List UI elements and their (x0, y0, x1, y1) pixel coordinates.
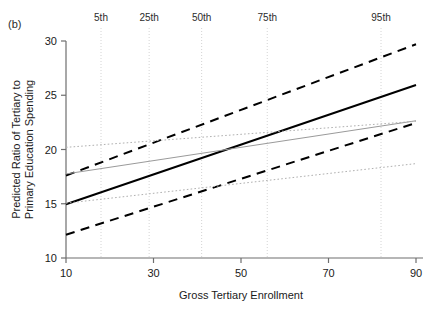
series-line-2 (66, 123, 416, 235)
series-line-0 (66, 85, 416, 204)
y-axis-title-line-1: Primary Education Spending (23, 80, 35, 219)
y-tick-label-25: 25 (45, 89, 57, 101)
x-tick-label-50: 50 (235, 267, 247, 279)
percentile-label-5th: 5th (94, 12, 108, 23)
figure-panel: (b) 5th25th50th75th95th10152025301030507… (0, 0, 431, 313)
x-tick-label-90: 90 (410, 267, 422, 279)
series-line-3 (66, 121, 416, 174)
y-axis-title-line-0: Predicted Ratio of Tertiary to (10, 80, 22, 219)
y-tick-label-10: 10 (45, 252, 57, 264)
percentile-label-75th: 75th (258, 12, 277, 23)
chart-canvas: 5th25th50th75th95th10152025301030507090G… (0, 0, 431, 313)
series-line-5 (66, 164, 416, 204)
y-tick-label-30: 30 (45, 35, 57, 47)
x-tick-label-30: 30 (147, 267, 159, 279)
x-tick-label-70: 70 (322, 267, 334, 279)
percentile-label-95th: 95th (371, 12, 390, 23)
x-axis-title: Gross Tertiary Enrollment (179, 289, 303, 301)
x-tick-label-10: 10 (60, 267, 72, 279)
y-tick-label-20: 20 (45, 144, 57, 156)
series-line-4 (66, 121, 416, 147)
y-tick-label-15: 15 (45, 198, 57, 210)
series-line-1 (66, 44, 416, 175)
percentile-label-50th: 50th (192, 12, 211, 23)
percentile-label-25th: 25th (139, 12, 158, 23)
